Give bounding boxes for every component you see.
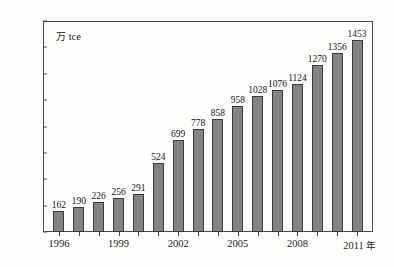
x-axis-tick-label: 2011 年 — [343, 238, 376, 252]
bar-value-label: 1028 — [248, 85, 267, 95]
x-axis-tick-label: 2005 — [227, 238, 248, 249]
bar — [292, 84, 303, 232]
bar-value-label: 1356 — [328, 42, 347, 52]
bar — [73, 207, 84, 232]
x-axis-tick-mark — [158, 232, 159, 236]
x-axis-tick-mark — [99, 232, 100, 236]
x-axis-tick-mark — [238, 232, 239, 236]
bar — [93, 202, 104, 232]
x-axis-tick-mark — [297, 232, 298, 236]
x-axis-tick-mark — [119, 232, 120, 236]
x-axis-tick-mark — [79, 232, 80, 236]
bar — [173, 140, 184, 232]
bar — [232, 106, 243, 232]
bar — [153, 163, 164, 232]
bar-value-label: 162 — [52, 200, 66, 210]
bar-value-label: 291 — [131, 183, 145, 193]
bar-value-label: 1076 — [268, 79, 287, 89]
x-axis-tick-mark — [357, 232, 358, 236]
bar-value-label: 1270 — [308, 54, 327, 64]
x-axis-tick-label-text: 2011 — [343, 240, 366, 251]
bar — [332, 53, 343, 232]
x-axis-tick-mark — [258, 232, 259, 236]
bar — [53, 211, 64, 232]
bar-value-label: 699 — [171, 129, 185, 139]
x-axis-tick-label: 1999 — [108, 238, 129, 249]
x-axis: 199619992002200520082011 年 — [43, 232, 373, 267]
bar-value-label: 524 — [151, 152, 165, 162]
bar-value-label: 1453 — [348, 29, 367, 39]
bar-value-label: 958 — [231, 95, 245, 105]
bar — [352, 40, 363, 232]
y-axis: 02004006008001000120014001600 — [0, 0, 43, 232]
bar — [252, 96, 263, 232]
bar — [193, 129, 204, 232]
bar-value-label: 190 — [72, 196, 86, 206]
bars-layer: 1621902262562915246997788589581028107611… — [43, 21, 373, 232]
bar — [272, 90, 283, 232]
x-axis-tick-mark — [138, 232, 139, 236]
x-axis-unit-year: 年 — [366, 240, 376, 251]
bar-chart-figure: 02004006008001000120014001600 万 tce 1621… — [0, 0, 394, 267]
x-axis-tick-mark — [278, 232, 279, 236]
bar-value-label: 858 — [211, 108, 225, 118]
x-axis-tick-mark — [337, 232, 338, 236]
bar-value-label: 1124 — [288, 73, 307, 83]
x-axis-tick-mark — [59, 232, 60, 236]
bar-value-label: 256 — [111, 187, 125, 197]
x-axis-tick-mark — [178, 232, 179, 236]
bar — [212, 119, 223, 232]
bar-value-label: 226 — [92, 191, 106, 201]
x-axis-tick-label: 2002 — [168, 238, 189, 249]
bar-value-label: 778 — [191, 118, 205, 128]
bar — [133, 194, 144, 232]
bar — [312, 65, 323, 232]
x-axis-tick-mark — [218, 232, 219, 236]
x-axis-tick-label: 1996 — [48, 238, 69, 249]
x-axis-tick-label: 2008 — [287, 238, 308, 249]
x-axis-tick-mark — [198, 232, 199, 236]
bar — [113, 198, 124, 232]
x-axis-tick-mark — [317, 232, 318, 236]
